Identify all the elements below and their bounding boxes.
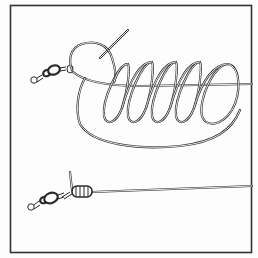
knot-drawing [0, 0, 258, 258]
tightened-knot-panel [28, 172, 252, 210]
swivel-bottom-icon [28, 191, 64, 210]
knot-illustration [0, 0, 258, 258]
knot-wraps [62, 186, 92, 199]
coils [104, 62, 239, 124]
frame-border [11, 6, 252, 253]
swivel-top-icon [31, 64, 73, 83]
loose-coils-panel [31, 30, 252, 147]
